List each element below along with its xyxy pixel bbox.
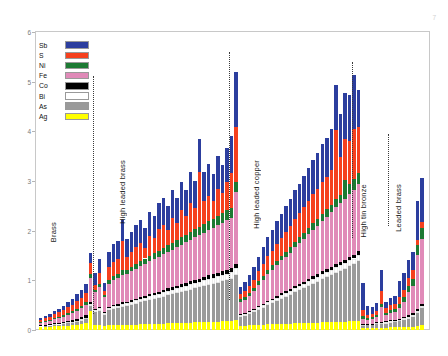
bar [375, 303, 378, 330]
legend-item-s: S [39, 50, 89, 60]
bar-segment-bi [284, 293, 287, 296]
bar [275, 221, 278, 330]
bar-segment-co [103, 312, 106, 313]
bar-segment-fe [334, 207, 337, 264]
bar-segment-as [380, 324, 383, 328]
bar-segment-ni [393, 309, 396, 312]
bar [352, 75, 355, 330]
bar-segment-fe [62, 317, 65, 322]
bar-segment-ni [57, 317, 60, 318]
bar-segment-as [266, 305, 269, 324]
legend-label: Co [39, 82, 65, 89]
bar-segment-fe [143, 264, 146, 296]
bar-segment-sb [125, 239, 128, 257]
bar-segment-sb [252, 267, 255, 280]
bar-segment-as [420, 308, 423, 325]
bar-segment-as [339, 271, 342, 322]
bar-segment-as [62, 324, 65, 326]
bar-segment-fe [339, 203, 342, 262]
bar-segment-fe [148, 261, 151, 294]
bar-segment-as [262, 308, 265, 325]
bar [407, 260, 410, 330]
bar [180, 182, 183, 331]
bar-segment-co [66, 321, 69, 322]
bar-segment-fe [98, 287, 101, 307]
bar-segment-co [112, 305, 115, 306]
bar-segment-as [93, 312, 96, 325]
y-tick-label: 1 [27, 277, 31, 284]
bar-segment-bi [212, 278, 215, 284]
legend-label: Ni [39, 62, 65, 69]
bar-segment-co [202, 277, 205, 280]
bar-segment-as [316, 282, 319, 323]
bar-segment-fe [293, 247, 296, 286]
bar-segment-ag [157, 324, 160, 330]
bar-segment-sb [39, 318, 42, 319]
bar-segment-bi [139, 299, 142, 302]
bar-segment-as [334, 273, 337, 322]
group-label-4: Leaded brass [394, 184, 403, 232]
bar-segment-sb [343, 93, 346, 139]
bar [157, 203, 160, 330]
bar-segment-s [80, 298, 83, 306]
bar-segment-s [239, 294, 242, 299]
bar-segment-fe [48, 321, 51, 324]
bar-segment-ni [248, 293, 251, 296]
bar-segment-bi [153, 295, 156, 299]
bar-segment-ag [148, 324, 151, 330]
bar-segment-sb [284, 206, 287, 232]
bar-segment-ni [271, 265, 274, 269]
bar-segment-s [189, 203, 192, 232]
bar-segment-ag [275, 324, 278, 330]
bar [398, 281, 401, 330]
bar-segment-bi [107, 308, 110, 310]
legend-swatch-s [65, 52, 89, 60]
bar-segment-ag [393, 327, 396, 330]
bar-segment-bi [380, 323, 383, 324]
bar-segment-ni [339, 195, 342, 203]
bar-segment-fe [103, 297, 106, 312]
bar-segment-bi [393, 321, 396, 322]
bar-segment-s [307, 201, 310, 228]
bar-segment-sb [180, 182, 183, 211]
bar-segment-as [39, 326, 42, 327]
bar [189, 172, 192, 330]
bar-segment-as [298, 290, 301, 323]
bar-segment-as [411, 317, 414, 327]
bar-segment-ag [180, 323, 183, 330]
bar-segment-sb [416, 201, 419, 240]
bar-segment-fe [298, 243, 301, 284]
bar-segment-bi [321, 274, 324, 279]
y-tick-label: 6 [27, 29, 31, 36]
bar-segment-co [275, 296, 278, 298]
bar-segment-s [121, 241, 124, 271]
bar-segment-co [143, 296, 146, 298]
group-label-0: Brass [49, 222, 58, 242]
bar-segment-sb [330, 129, 333, 170]
bar-segment-ni [257, 281, 260, 284]
bar [334, 85, 337, 330]
bar-segment-sb [389, 298, 392, 305]
legend-item-ag: Ag [39, 111, 89, 121]
bar-segment-sb [334, 85, 337, 130]
bar-segment-as [230, 279, 233, 321]
bar-segment-ni [157, 251, 160, 257]
bar-segment-sb [107, 252, 110, 268]
bar-segment-fe [234, 192, 237, 264]
bar [384, 302, 387, 330]
bar [107, 252, 110, 330]
bar-segment-co [53, 323, 56, 324]
bar-segment-s [398, 297, 401, 304]
bar-segment-ni [284, 252, 287, 257]
bar-segment-fe [57, 318, 60, 322]
bar-segment-sb [262, 247, 265, 264]
bar-segment-ag [221, 321, 224, 330]
bar-segment-bi [357, 255, 360, 261]
bar-segment-fe [311, 230, 314, 277]
bar-segment-as [252, 312, 255, 325]
bar-segment-ni [316, 219, 319, 226]
bar-segment-bi [157, 294, 160, 298]
bar-segment-sb [171, 190, 174, 218]
bar-segment-fe [53, 319, 56, 323]
bar-segment-fe [107, 284, 110, 307]
